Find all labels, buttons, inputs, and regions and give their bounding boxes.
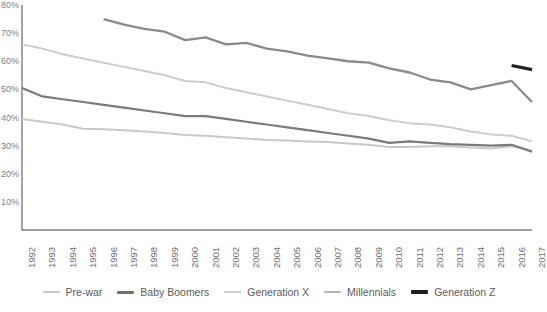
legend-label: Pre-war — [66, 286, 103, 298]
legend-swatch-icon — [324, 291, 341, 293]
chart-legend: Pre-warBaby BoomersGeneration XMillennia… — [0, 281, 538, 303]
x-axis-tick-label: 1997 — [128, 247, 139, 268]
x-axis-tick-label: 2002 — [230, 247, 241, 268]
y-axis-tick-label: 30% — [1, 141, 19, 151]
x-axis-tick-label: 2015 — [495, 247, 506, 268]
x-axis-tick-label: 2001 — [210, 247, 221, 268]
legend-item[interactable]: Pre-war — [43, 286, 103, 298]
x-axis-tick-label: 2016 — [516, 247, 527, 268]
x-axis-tick-label: 1998 — [148, 247, 159, 268]
legend-item[interactable]: Baby Boomers — [117, 286, 209, 298]
legend-swatch-icon — [224, 291, 241, 293]
x-axis-tick-label: 2008 — [352, 247, 363, 268]
y-axis-tick-label: 20% — [1, 169, 19, 179]
legend-swatch-icon — [411, 290, 428, 293]
y-axis-tick-label: 70% — [1, 28, 19, 38]
x-axis-tick-label: 1994 — [67, 247, 78, 268]
x-axis-tick-label: 2013 — [454, 247, 465, 268]
y-axis-tick-label: 60% — [1, 56, 19, 66]
y-axis-tick-label: 50% — [1, 84, 19, 94]
x-axis-tick-label: 2007 — [332, 247, 343, 268]
legend-label: Baby Boomers — [140, 286, 209, 298]
x-axis-tick-label: 1999 — [169, 247, 180, 268]
x-axis-tick-label: 2010 — [393, 247, 404, 268]
x-axis-tick-label: 2012 — [434, 247, 445, 268]
x-axis-tick-label: 2014 — [475, 247, 486, 268]
legend-label: Generation X — [247, 286, 309, 298]
x-axis-tick-label: 2005 — [291, 247, 302, 268]
x-axis-tick-label: 1992 — [26, 247, 37, 268]
series-line-pre-war — [22, 119, 532, 151]
x-axis-tick-label: 2000 — [189, 247, 200, 268]
y-axis-tick-label: 40% — [1, 113, 19, 123]
x-axis-tick-label: 2009 — [373, 247, 384, 268]
legend-swatch-icon — [43, 291, 60, 293]
legend-label: Millennials — [347, 286, 396, 298]
x-axis-tick-label: 2017 — [536, 247, 547, 268]
legend-swatch-icon — [117, 291, 134, 294]
y-axis-tick-label: 10% — [1, 197, 19, 207]
legend-item[interactable]: Generation Z — [411, 286, 495, 298]
x-axis-tick-label: 1993 — [46, 247, 57, 268]
x-axis-tick-label: 2006 — [312, 247, 323, 268]
x-axis-tick-label: 1996 — [108, 247, 119, 268]
legend-item[interactable]: Millennials — [324, 286, 396, 298]
x-axis-tick-label: 2004 — [271, 247, 282, 268]
series-line-millennials — [104, 19, 532, 102]
legend-item[interactable]: Generation X — [224, 286, 309, 298]
x-axis-tick-label: 2011 — [414, 248, 425, 268]
series-line-generation-z — [512, 65, 532, 69]
x-axis-tick-label: 2003 — [250, 247, 261, 268]
legend-label: Generation Z — [434, 286, 495, 298]
axis-spines — [22, 5, 532, 230]
x-axis-tick-label: 1995 — [87, 247, 98, 268]
y-axis-tick-label: 80% — [1, 0, 19, 10]
